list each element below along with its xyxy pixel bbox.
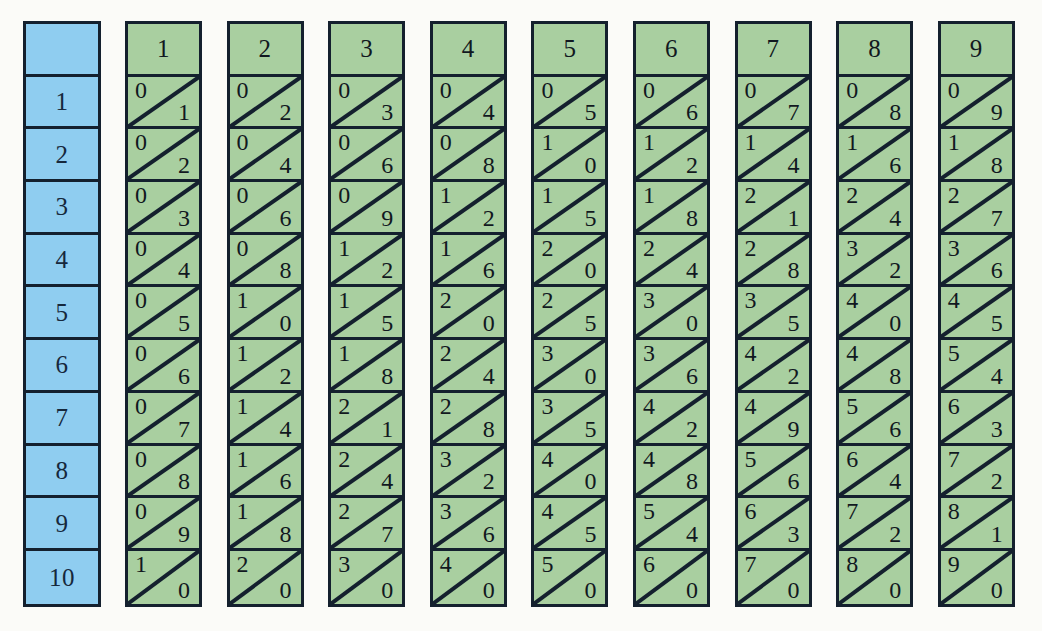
units-digit: 8	[280, 522, 292, 546]
split-cell: 64	[839, 446, 910, 496]
product-cell: 02	[128, 129, 199, 182]
index-rod-row-label: 1	[26, 77, 98, 127]
multiplier-rod-7[interactable]: 707142128354249566370	[735, 21, 812, 607]
units-digit: 2	[788, 364, 800, 388]
rod-header-cell: 2	[230, 24, 301, 77]
multiplier-rod-2[interactable]: 202040608101214161820	[227, 21, 304, 607]
tens-digit: 3	[846, 236, 858, 260]
split-cell: 45	[534, 498, 605, 548]
index-rod-row-label: 6	[26, 340, 98, 390]
tens-digit: 5	[846, 394, 858, 418]
product-cell: 64	[839, 446, 910, 499]
split-cell: 40	[534, 446, 605, 496]
split-cell: 01	[128, 77, 199, 127]
index-rod[interactable]: 12345678910	[23, 21, 101, 607]
split-cell: 07	[738, 77, 809, 127]
index-rod-row-label: 3	[26, 182, 98, 232]
product-cell: 08	[433, 129, 504, 182]
product-cell: 07	[738, 77, 809, 130]
tens-digit: 0	[135, 183, 147, 207]
product-cell: 09	[331, 182, 402, 235]
units-digit: 0	[584, 153, 596, 177]
product-cell: 28	[433, 393, 504, 446]
split-cell: 40	[433, 551, 504, 604]
index-rod-row: 2	[26, 129, 98, 182]
tens-digit: 2	[237, 552, 249, 576]
tens-digit: 0	[237, 236, 249, 260]
units-digit: 1	[788, 206, 800, 230]
product-cell: 36	[636, 340, 707, 393]
tens-digit: 0	[135, 78, 147, 102]
rod-header-label: 5	[534, 24, 605, 74]
multiplier-rod-1[interactable]: 101020304050607080910	[125, 21, 202, 607]
index-rod-header-cell	[26, 24, 98, 77]
split-cell: 30	[636, 287, 707, 337]
product-cell: 05	[534, 77, 605, 130]
product-cell: 20	[433, 287, 504, 340]
product-cell: 24	[839, 182, 910, 235]
units-digit: 0	[584, 578, 596, 602]
split-cell: 90	[941, 551, 1012, 604]
units-digit: 2	[178, 153, 190, 177]
units-digit: 0	[584, 469, 596, 493]
tens-digit: 0	[135, 499, 147, 523]
product-cell: 45	[534, 498, 605, 551]
multiplier-rod-9[interactable]: 909182736455463728190	[938, 21, 1015, 607]
split-cell: 42	[738, 340, 809, 390]
tens-digit: 1	[745, 130, 757, 154]
multiplier-rod-4[interactable]: 404081216202428323640	[430, 21, 507, 607]
units-digit: 6	[686, 364, 698, 388]
units-digit: 4	[991, 364, 1003, 388]
product-cell: 10	[534, 129, 605, 182]
units-digit: 8	[889, 100, 901, 124]
split-cell: 10	[534, 129, 605, 179]
units-digit: 0	[889, 578, 901, 602]
tens-digit: 1	[338, 341, 350, 365]
tens-digit: 2	[338, 499, 350, 523]
split-cell: 32	[433, 446, 504, 496]
product-cell: 21	[331, 393, 402, 446]
multiplier-rod-6[interactable]: 606121824303642485460	[633, 21, 710, 607]
split-cell: 28	[738, 235, 809, 285]
split-cell: 07	[128, 393, 199, 443]
split-cell: 04	[433, 77, 504, 127]
product-cell: 27	[331, 498, 402, 551]
product-cell: 06	[128, 340, 199, 393]
multiplier-rod-3[interactable]: 303060912151821242730	[328, 21, 405, 607]
index-rod-row: 7	[26, 393, 98, 446]
split-cell: 54	[636, 498, 707, 548]
index-rod-row: 8	[26, 446, 98, 499]
rod-header-label: 7	[738, 24, 809, 74]
units-digit: 9	[381, 206, 393, 230]
multiplier-rod-5[interactable]: 505101520253035404550	[531, 21, 608, 607]
tens-digit: 1	[846, 130, 858, 154]
split-cell: 63	[738, 498, 809, 548]
rod-header-label: 4	[433, 24, 504, 74]
product-cell: 08	[230, 235, 301, 288]
split-cell: 49	[738, 393, 809, 443]
rod-header-label: 9	[941, 24, 1012, 74]
units-digit: 9	[788, 417, 800, 441]
product-cell: 12	[331, 235, 402, 288]
tens-digit: 1	[440, 236, 452, 260]
product-cell: 45	[941, 287, 1012, 340]
split-cell: 05	[534, 77, 605, 127]
product-cell: 04	[230, 129, 301, 182]
multiplier-rod-8[interactable]: 808162432404856647280	[836, 21, 913, 607]
split-cell: 18	[331, 340, 402, 390]
tens-digit: 1	[237, 341, 249, 365]
product-cell: 12	[230, 340, 301, 393]
split-cell: 20	[534, 235, 605, 285]
index-rod-row: 9	[26, 498, 98, 551]
split-cell: 81	[941, 498, 1012, 548]
tens-digit: 5	[643, 499, 655, 523]
split-cell: 18	[636, 182, 707, 232]
product-cell: 35	[534, 393, 605, 446]
tens-digit: 1	[338, 288, 350, 312]
product-cell: 04	[433, 77, 504, 130]
units-digit: 8	[178, 469, 190, 493]
units-digit: 0	[483, 578, 495, 602]
units-digit: 0	[889, 311, 901, 335]
tens-digit: 3	[643, 288, 655, 312]
split-cell: 08	[230, 235, 301, 285]
